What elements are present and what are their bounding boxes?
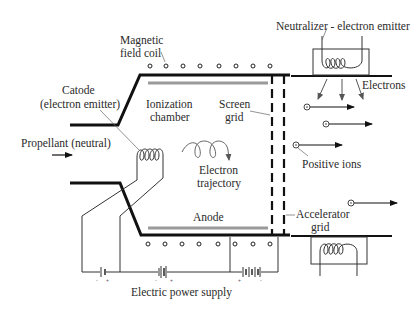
magnetic-coil-leader bbox=[161, 52, 165, 62]
ion-thruster-diagram: - + - + + - bbox=[0, 0, 420, 309]
power-supply-label: Electric power supply bbox=[131, 286, 232, 299]
magnetic-coil-bottom bbox=[146, 242, 272, 246]
bottom-coil bbox=[311, 237, 367, 276]
svg-text:-: - bbox=[96, 277, 98, 283]
electron-arrows bbox=[318, 79, 363, 100]
magnetic-coil-label-2: field coil bbox=[120, 47, 161, 59]
ionization-label-2: chamber bbox=[150, 111, 190, 123]
neutralizer-coil bbox=[322, 36, 362, 68]
ion-1 bbox=[304, 104, 354, 110]
neutralizer-label: Neutralizer - electron emitter bbox=[276, 20, 410, 32]
battery-1 bbox=[101, 267, 105, 277]
neutralizer bbox=[313, 28, 369, 75]
positive-ions-leader bbox=[298, 148, 308, 156]
propellant-label: Propellant (neutral) bbox=[21, 137, 111, 150]
catode-label-1: Catode bbox=[62, 84, 95, 96]
cathode-wire-left bbox=[82, 180, 137, 272]
svg-text:-: - bbox=[260, 277, 262, 283]
electron-trajectory-label-2: trajectory bbox=[197, 177, 241, 190]
battery-3 bbox=[243, 267, 260, 277]
electrons-label: Electrons bbox=[362, 79, 406, 91]
cathode-wire-right bbox=[120, 178, 163, 272]
catode-label-2: (electron emitter) bbox=[40, 98, 120, 111]
accelerator-label-1: Accelerator bbox=[296, 208, 350, 220]
anode-label: Anode bbox=[193, 211, 224, 223]
screen-grid-label-1: Screen bbox=[219, 98, 251, 110]
svg-text:+: + bbox=[170, 277, 173, 283]
screen-grid-label-2: grid bbox=[225, 111, 244, 124]
svg-text:-: - bbox=[155, 277, 157, 283]
battery-2 bbox=[159, 266, 166, 278]
electron-trajectory-path bbox=[182, 141, 229, 160]
magnetic-coil-label-1: Magnetic bbox=[120, 34, 163, 47]
screen-grid-leader bbox=[250, 111, 270, 115]
ion-3 bbox=[293, 142, 342, 148]
svg-text:+: + bbox=[106, 277, 109, 283]
cathode-coil bbox=[137, 149, 163, 180]
positive-ions bbox=[293, 104, 397, 206]
positive-ions-label: Positive ions bbox=[302, 158, 362, 170]
accelerator-label-2: grid bbox=[311, 221, 330, 234]
svg-text:+: + bbox=[238, 277, 241, 283]
magnetic-coil-top bbox=[148, 64, 272, 68]
electron-trajectory-label-1: Electron bbox=[199, 164, 238, 176]
ionization-label-1: Ionization bbox=[146, 98, 193, 110]
ion-2 bbox=[323, 121, 372, 127]
ion-4 bbox=[348, 200, 397, 206]
